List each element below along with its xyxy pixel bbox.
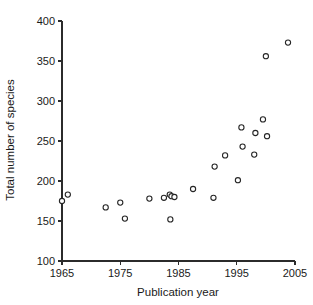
plot-area: 1001502002503003504001965197519851995200… [0, 0, 313, 305]
x-tick-label: 1975 [108, 267, 132, 279]
data-point [263, 54, 268, 59]
data-point [118, 200, 123, 205]
x-tick-label: 1995 [225, 267, 249, 279]
x-tick-label: 1965 [50, 267, 74, 279]
axes [62, 21, 295, 261]
data-point [190, 186, 195, 191]
y-tick-label: 200 [37, 175, 55, 187]
data-point [147, 196, 152, 201]
data-point [223, 153, 228, 158]
data-point [168, 217, 173, 222]
data-point [59, 198, 64, 203]
x-tick-label: 1985 [166, 267, 190, 279]
data-point [211, 195, 216, 200]
x-axis-title: Publication year [137, 286, 219, 298]
data-point [264, 134, 269, 139]
data-point [103, 205, 108, 210]
y-tick-label: 350 [37, 55, 55, 67]
scatter-chart: 1001502002503003504001965197519851995200… [0, 0, 313, 305]
data-point [235, 178, 240, 183]
y-axis-title: Total number of species [4, 79, 16, 201]
y-tick-label: 400 [37, 15, 55, 27]
data-point [122, 216, 127, 221]
data-point [285, 40, 290, 45]
data-point [252, 152, 257, 157]
y-tick-label: 150 [37, 215, 55, 227]
y-tick-label: 100 [37, 255, 55, 267]
data-point [239, 125, 244, 130]
data-point [212, 164, 217, 169]
data-point [240, 144, 245, 149]
data-point [161, 195, 166, 200]
data-points [59, 40, 290, 222]
data-point [260, 117, 265, 122]
data-point [172, 194, 177, 199]
x-tick-label: 2005 [283, 267, 307, 279]
data-point [253, 130, 258, 135]
y-tick-label: 300 [37, 95, 55, 107]
y-tick-label: 250 [37, 135, 55, 147]
data-point [65, 192, 70, 197]
